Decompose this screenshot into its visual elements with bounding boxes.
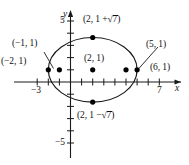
point-center <box>90 67 95 72</box>
x-axis <box>14 79 181 84</box>
label-focus-left: (−1, 1) <box>12 39 37 49</box>
label-covertex-bottom: (2, 1 −√7) <box>77 110 114 120</box>
point-focus-left <box>57 67 62 72</box>
label-vertex-left: (−2, 1) <box>1 57 26 67</box>
x-axis-label: x <box>175 84 179 94</box>
y-axis <box>68 10 73 158</box>
point-focus-right <box>123 67 128 72</box>
point-vertex-left <box>46 67 51 72</box>
label-center: (2, 1) <box>84 54 104 64</box>
x-tick-label-7: 7 <box>157 86 162 96</box>
y-tick-label-5: 5 <box>60 16 65 26</box>
label-covertex-bottom-prefix: (2, 1 − <box>77 110 101 120</box>
point-vertex-right <box>135 67 140 72</box>
ellipse-graph-figure <box>0 0 189 165</box>
label-covertex-bottom-radicand: 7 <box>107 110 112 120</box>
point-covertex-top <box>90 35 95 40</box>
y-tick-label-neg5: −5 <box>55 138 65 148</box>
label-focus-right: (5, 1) <box>146 40 166 50</box>
label-covertex-top-prefix: (2, 1 + <box>83 14 107 24</box>
label-covertex-top-radicand: 7 <box>113 14 118 24</box>
x-tick-label-neg3: −3 <box>31 86 41 96</box>
label-vertex-right: (6, 1) <box>150 63 170 73</box>
label-covertex-top: (2, 1 +√7) <box>83 14 120 24</box>
plotted-points <box>46 35 140 105</box>
point-covertex-bot <box>90 100 95 105</box>
